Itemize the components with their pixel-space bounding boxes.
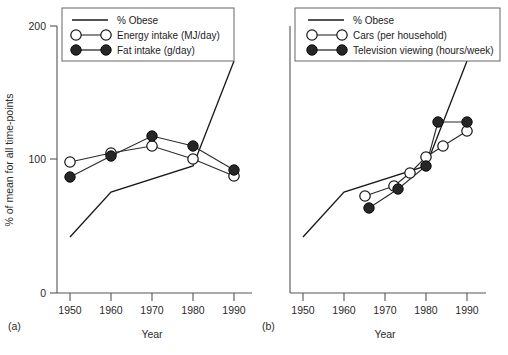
legend-b-marker-open-circle [307, 30, 317, 40]
x-tick-label-a-1970: 1970 [140, 304, 164, 316]
panel-label-b: (b) [262, 320, 275, 332]
series-markers-energy-a [65, 141, 239, 181]
legend-a-marker-open-circle [71, 30, 81, 40]
panel-b-x-axis: 1950 1960 1970 1980 1990 Year [290, 293, 486, 340]
series-line-cars-b [365, 131, 467, 196]
obesity-trends-figure: 200 100 0 % of mean for all time-points … [0, 0, 508, 355]
x-tick-label-b-1990: 1990 [455, 304, 479, 316]
x-tick-label-b-1960: 1960 [332, 304, 356, 316]
legend-b-label-1: Cars (per household) [353, 30, 447, 41]
data-point [65, 172, 75, 182]
x-axis-title-b: Year [374, 328, 396, 340]
x-tick-label-a-1990: 1990 [222, 304, 246, 316]
panel-a-x-axis: 1950 1960 1970 1980 1990 Year [57, 293, 252, 340]
y-tick-label-0: 0 [40, 287, 46, 299]
x-tick-label-a-1980: 1980 [181, 304, 205, 316]
legend-b-marker-open-circle [337, 30, 347, 40]
legend-panel-b: % Obese Cars (per household) Television … [295, 8, 500, 61]
y-tick-label-200: 200 [28, 20, 46, 32]
data-point [229, 165, 239, 175]
legend-panel-a: % Obese Energy intake (MJ/day) Fat intak… [62, 8, 234, 61]
data-point [433, 117, 443, 127]
data-point [65, 157, 75, 167]
data-point [462, 117, 472, 127]
chart-svg: 200 100 0 % of mean for all time-points … [0, 0, 508, 355]
legend-a-label-1: Energy intake (MJ/day) [117, 30, 220, 41]
data-point [438, 141, 448, 151]
legend-b-label-2: Television viewing (hours/week) [353, 45, 494, 56]
data-point [364, 203, 374, 213]
data-point [106, 151, 116, 161]
y-axis: 200 100 0 % of mean for all time-points [3, 20, 57, 299]
series-markers-cars-b [360, 126, 472, 201]
y-tick-label-100: 100 [28, 153, 46, 165]
y-axis-title: % of mean for all time-points [3, 93, 15, 226]
panel-label-a: (a) [8, 320, 21, 332]
series-markers-fat-a [65, 131, 239, 182]
data-point [405, 168, 415, 178]
x-tick-label-b-1970: 1970 [373, 304, 397, 316]
data-point [188, 154, 198, 164]
legend-b-marker-filled-circle [307, 45, 317, 55]
panel-b: 1950 1960 1970 1980 1990 Year [262, 8, 500, 340]
legend-a-marker-filled-circle [71, 45, 81, 55]
data-point [393, 184, 403, 194]
data-point [147, 131, 157, 141]
x-axis-title-a: Year [141, 328, 163, 340]
legend-a-marker-open-circle [101, 30, 111, 40]
legend-a-label-0: % Obese [117, 15, 159, 26]
x-tick-label-b-1950: 1950 [291, 304, 315, 316]
x-tick-label-b-1980: 1980 [414, 304, 438, 316]
data-point [360, 191, 370, 201]
legend-b-marker-filled-circle [337, 45, 347, 55]
data-point [188, 141, 198, 151]
data-point [147, 141, 157, 151]
legend-b-label-0: % Obese [353, 15, 395, 26]
x-tick-label-a-1950: 1950 [58, 304, 82, 316]
legend-a-label-2: Fat intake (g/day) [117, 45, 195, 56]
data-point [421, 161, 431, 171]
x-tick-label-a-1960: 1960 [99, 304, 123, 316]
legend-a-marker-filled-circle [101, 45, 111, 55]
